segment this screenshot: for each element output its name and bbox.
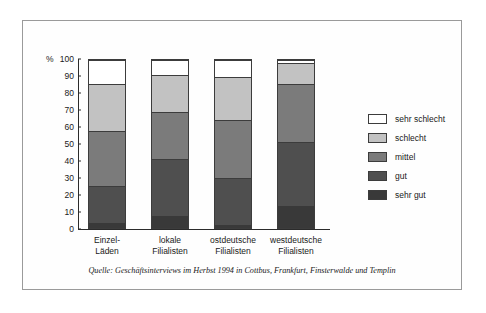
bar-segment bbox=[278, 84, 314, 143]
x-axis-category-label-line: Filialisten bbox=[258, 246, 334, 257]
legend-label: sehr gut bbox=[395, 190, 426, 200]
source-note: Quelle: Geschäftsinterviews im Herbst 19… bbox=[23, 266, 461, 275]
y-tick-mark bbox=[78, 229, 81, 230]
y-tick-label: 30 bbox=[65, 173, 74, 183]
bar-segment bbox=[215, 178, 251, 225]
y-tick-mark bbox=[78, 76, 81, 77]
y-tick-label: 80 bbox=[65, 88, 74, 98]
y-tick-label: 20 bbox=[65, 190, 74, 200]
legend-label: mittel bbox=[395, 152, 415, 162]
legend-swatch bbox=[368, 152, 387, 162]
bar-segment bbox=[152, 60, 188, 75]
stacked-bar bbox=[277, 59, 315, 229]
bar-segment bbox=[89, 84, 125, 131]
legend-item[interactable]: mittel bbox=[368, 147, 478, 166]
bar-segment bbox=[278, 142, 314, 206]
legend-swatch bbox=[368, 171, 387, 181]
y-tick-mark bbox=[78, 212, 81, 213]
legend-item[interactable]: schlecht bbox=[368, 128, 478, 147]
bar-segment bbox=[215, 225, 251, 228]
y-tick-label: 70 bbox=[65, 105, 74, 115]
legend-item[interactable]: sehr gut bbox=[368, 185, 478, 204]
y-tick-label: 50 bbox=[65, 139, 74, 149]
bar-segment bbox=[215, 77, 251, 121]
x-axis-category-label-line: westdeutsche bbox=[258, 235, 334, 246]
y-tick-label: 40 bbox=[65, 156, 74, 166]
x-axis-category-label: westdeutscheFilialisten bbox=[258, 235, 334, 257]
bar-segment bbox=[152, 75, 188, 112]
bar-segment bbox=[152, 216, 188, 228]
stacked-bar bbox=[88, 59, 126, 229]
y-tick-label: 10 bbox=[65, 207, 74, 217]
y-tick-label: 0 bbox=[69, 224, 74, 234]
x-axis-line bbox=[78, 229, 330, 230]
y-tick-mark bbox=[78, 195, 81, 196]
bar-segment bbox=[89, 131, 125, 186]
y-tick-mark bbox=[78, 161, 81, 162]
y-tick-mark bbox=[78, 59, 81, 60]
y-tick-label: 90 bbox=[65, 71, 74, 81]
y-tick-mark bbox=[78, 127, 81, 128]
legend-item[interactable]: sehr schlecht bbox=[368, 109, 478, 128]
bar-segment bbox=[89, 60, 125, 84]
y-tick-label: 100 bbox=[60, 54, 74, 64]
stacked-bar bbox=[151, 59, 189, 229]
y-tick-mark bbox=[78, 178, 81, 179]
bar-segment bbox=[278, 63, 314, 83]
bar-segment bbox=[89, 186, 125, 223]
stacked-bar bbox=[214, 59, 252, 229]
figure-frame: % 0102030405060708090100 Einzel-Lädenlok… bbox=[22, 20, 462, 290]
legend-item[interactable]: gut bbox=[368, 166, 478, 185]
y-tick-mark bbox=[78, 144, 81, 145]
y-axis-unit-label: % bbox=[46, 54, 54, 64]
bar-segment bbox=[89, 223, 125, 228]
legend-swatch bbox=[368, 190, 387, 200]
legend-label: schlecht bbox=[395, 133, 426, 143]
bar-segment bbox=[152, 112, 188, 159]
plot-area: 0102030405060708090100 Einzel-Lädenlokal… bbox=[78, 59, 328, 229]
y-tick-mark bbox=[78, 93, 81, 94]
legend-swatch bbox=[368, 114, 387, 124]
legend: sehr schlechtschlechtmittelgutsehr gut bbox=[368, 109, 478, 204]
y-tick-label: 60 bbox=[65, 122, 74, 132]
legend-label: gut bbox=[395, 171, 407, 181]
y-tick-mark bbox=[78, 110, 81, 111]
bar-segment bbox=[215, 120, 251, 177]
bar-segment bbox=[152, 159, 188, 216]
legend-label: sehr schlecht bbox=[395, 114, 445, 124]
bar-segment bbox=[278, 206, 314, 228]
bar-segment bbox=[215, 60, 251, 77]
legend-swatch bbox=[368, 133, 387, 143]
